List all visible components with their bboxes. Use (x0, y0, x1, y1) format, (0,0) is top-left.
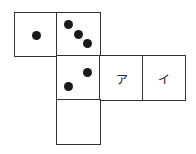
face-label-i: イ (143, 56, 185, 100)
pip (74, 30, 83, 39)
face-i: イ (142, 55, 186, 101)
face-label-a: ア (100, 56, 143, 100)
pip (83, 39, 92, 48)
pip (83, 68, 92, 77)
face-one-pip (14, 12, 58, 57)
face-three-pips (56, 12, 101, 57)
face-a: ア (99, 55, 144, 101)
pip (32, 31, 41, 40)
pip (64, 20, 73, 29)
pip (64, 82, 73, 91)
face-two-pips (56, 55, 101, 101)
face-blank (56, 99, 101, 145)
